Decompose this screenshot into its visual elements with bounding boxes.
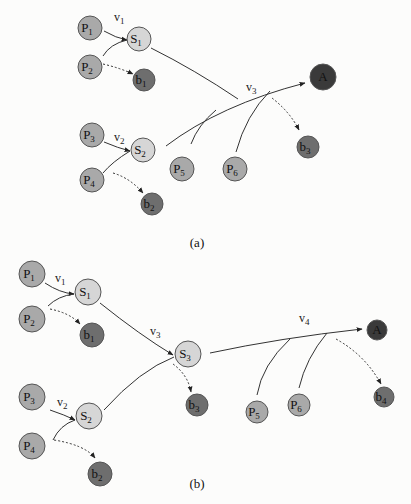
a-node-s2: S2 <box>131 138 155 162</box>
a-node-p3: P3 <box>80 123 104 147</box>
edge-p2-b1-dashed <box>103 64 133 74</box>
edge-p1-s1 <box>104 31 127 40</box>
edge-p6-merge <box>236 91 270 152</box>
b-edge-label-v3: v3 <box>150 324 161 340</box>
edge-v3-main <box>166 83 305 146</box>
edge-b3-dashed <box>272 98 299 130</box>
a-edge-label-v3: v3 <box>246 80 257 96</box>
b-node-p4: P4 <box>19 433 45 459</box>
edge-p4-s2 <box>103 151 130 173</box>
edge-p5-merge <box>257 339 290 395</box>
a-node-b2: b2 <box>141 193 163 215</box>
edge-b4-dashed <box>336 339 381 384</box>
b-edge-label-v4: v4 <box>299 311 310 327</box>
edge-v4-main <box>210 329 362 353</box>
caption-b: (b) <box>189 476 204 491</box>
a-edge-label-v2: v2 <box>114 130 125 146</box>
edge-s1-merge <box>151 48 238 99</box>
b-node-p3: P3 <box>19 384 45 410</box>
b-edge-label-v1: v1 <box>55 271 66 287</box>
a-node-a: A <box>310 64 336 90</box>
figure: P1P2S1b1P3P4S2b2P5P6Ab3 v1v2v3 P1P2S1b1S… <box>0 0 411 504</box>
edge-s1-s3 <box>100 303 173 355</box>
edge-p2-s1 <box>48 294 74 306</box>
b-node-s3: S3 <box>175 341 201 367</box>
diagram-b-edges <box>45 283 381 458</box>
a-node-p1: P1 <box>78 16 102 40</box>
a-node-p6: P6 <box>223 157 247 181</box>
svg-text:A: A <box>318 69 328 84</box>
a-node-p2: P2 <box>78 55 102 79</box>
edge-p2-b1-dashed <box>50 309 80 324</box>
caption-a: (a) <box>190 235 204 250</box>
edge-p4-b2-dashed <box>54 440 95 458</box>
edge-s2-s3 <box>104 357 174 410</box>
a-node-s1: S1 <box>127 27 151 51</box>
b-node-p2: P2 <box>19 306 45 332</box>
edge-s3-b3-dashed <box>173 364 191 392</box>
b-node-s1: S1 <box>75 279 101 305</box>
b-node-b2: b2 <box>88 462 112 486</box>
a-node-b1: b1 <box>133 69 155 91</box>
edge-p3-s2 <box>50 410 75 420</box>
b-node-b1: b1 <box>80 323 104 347</box>
b-node-p6: P6 <box>288 394 310 416</box>
diagram-a-edges <box>103 31 305 193</box>
a-node-p4: P4 <box>80 168 104 192</box>
a-node-p5: P5 <box>170 157 194 181</box>
b-node-p1: P1 <box>19 261 45 287</box>
diagram-a-nodes: P1P2S1b1P3P4S2b2P5P6Ab3 <box>78 16 336 215</box>
edge-p6-merge <box>299 333 327 388</box>
a-edge-label-v1: v1 <box>114 10 125 26</box>
a-node-b3: b3 <box>297 136 319 158</box>
b-node-b3: b3 <box>186 394 208 416</box>
b-node-s2: S2 <box>76 403 102 429</box>
diagram-b-nodes: P1P2S1b1S3b3P3P4S2b2P5P6Ab4 <box>19 261 394 486</box>
b-node-a: A <box>367 320 387 340</box>
edge-p2-s1 <box>103 40 127 56</box>
edge-p4-s2 <box>53 420 75 440</box>
b-node-p5: P5 <box>246 401 268 423</box>
b-edge-label-v2: v2 <box>57 395 68 411</box>
svg-text:A: A <box>372 322 382 337</box>
edge-p4-b2-dashed <box>113 173 143 193</box>
b-node-b4: b4 <box>374 387 394 407</box>
